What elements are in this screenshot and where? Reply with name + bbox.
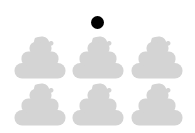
pile-of-poo-icon — [72, 82, 124, 126]
image-canvas — [0, 0, 195, 133]
pile-of-poo-grid — [0, 0, 195, 133]
pile-of-poo-glyph — [14, 82, 66, 126]
pile-of-poo-glyph — [72, 35, 124, 79]
pile-of-poo-glyph — [131, 35, 183, 79]
pile-of-poo-icon — [131, 82, 183, 126]
pile-of-poo-glyph — [14, 35, 66, 79]
pile-of-poo-icon — [72, 35, 124, 79]
pile-of-poo-icon — [14, 35, 66, 79]
pile-of-poo-glyph — [131, 82, 183, 126]
pile-of-poo-icon — [131, 35, 183, 79]
pile-of-poo-icon — [14, 82, 66, 126]
pile-of-poo-glyph — [72, 82, 124, 126]
